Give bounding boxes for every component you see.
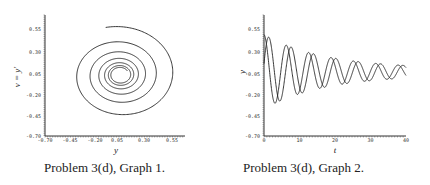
y-axis-label: y [237,70,247,75]
y-tick-label: 0.55 [29,26,41,32]
x-tick-label: 30 [367,137,373,143]
x-tick-label: 40 [403,137,409,143]
spiral-trajectory [77,27,173,115]
graph-1-caption: Problem 3(d), Graph 1. [44,160,165,176]
x-tick-label: -0.20 [87,137,102,143]
x-tick-label: 20 [332,137,338,143]
y-tick-label: -0.45 [245,113,260,119]
x-tick-label: 0.05 [111,137,123,143]
y-axis-label: v = y′ [12,66,22,88]
graph-2-plot: -0.70-0.45-0.200.050.300.55010203040ty [215,0,430,185]
y-tick-label: -0.20 [26,92,41,98]
graph-2-caption: Problem 3(d), Graph 2. [243,160,364,176]
x-tick-label: 0.55 [166,137,178,143]
x-tick-label: 10 [296,137,302,143]
y-tick-label: 0.05 [29,71,41,77]
x-axis-label: t [334,145,337,155]
x-tick-label: 0.30 [138,137,150,143]
x-tick-label: -0.45 [62,137,77,143]
x-tick-label: -0.70 [37,137,52,143]
y-tick-label: 0.55 [248,26,260,32]
y-tick-label: -0.45 [26,113,41,119]
graph-1-plot: -0.70-0.45-0.200.050.300.55-0.70-0.45-0.… [0,0,215,185]
x-tick-label: 0 [262,137,265,143]
y-tick-label: -0.70 [245,133,260,139]
graph-2-panel: -0.70-0.45-0.200.050.300.55010203040ty P… [215,0,430,185]
y-tick-label: 0.30 [29,49,41,55]
x-axis-label: y [113,145,118,155]
y-tick-label: -0.20 [245,92,260,98]
y-tick-label: 0.30 [248,49,260,55]
graph-1-panel: -0.70-0.45-0.200.050.300.55-0.70-0.45-0.… [0,0,215,185]
y-tick-label: 0.05 [248,71,260,77]
